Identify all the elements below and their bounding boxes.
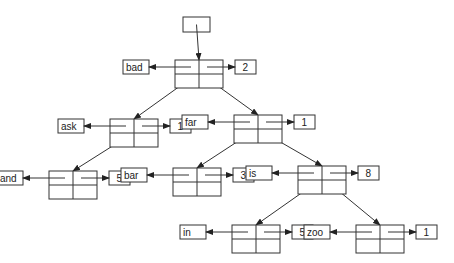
key-label: zoo [307,227,324,238]
key-label: in [183,227,191,238]
tree-node-in: in5 [180,225,313,253]
key-label: is [249,168,256,179]
count-label: 2 [243,62,249,73]
tree-node-zoo: zoo1 [304,225,437,253]
tree-node-is: is8 [246,166,379,194]
count-label: 1 [302,117,308,128]
bst-diagram: bad2ask1far1and5bar3is8in5zoo1 [0,0,454,263]
root-arrow [197,25,200,61]
tree-node-and: and5 [0,171,130,199]
key-label: bar [124,170,139,181]
tree-node-bar: bar3 [121,168,254,196]
count-label: 8 [366,168,372,179]
key-label: far [185,117,197,128]
tree-node-far: far1 [182,115,315,143]
key-label: ask [61,121,78,132]
count-label: 1 [424,227,430,238]
key-label: bad [126,62,143,73]
key-label: and [0,173,17,184]
tree-node-ask: ask1 [58,119,191,147]
tree-node-bad: bad2 [123,60,256,88]
